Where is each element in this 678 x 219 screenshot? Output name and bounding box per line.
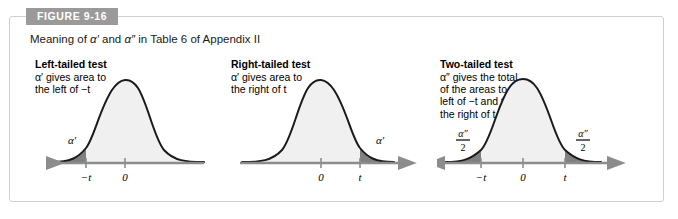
tick-label-neg-t: −t bbox=[81, 171, 92, 183]
tick-label-t: t bbox=[563, 171, 567, 183]
caption-text-after: in Table 6 of Appendix II bbox=[135, 33, 260, 45]
fraction-numerator-right: α″ bbox=[578, 128, 588, 139]
panel-two-tailed-chart: −t 0 t α″ 2 α″ 2 bbox=[437, 58, 645, 188]
density-curve-fill bbox=[52, 80, 204, 162]
tick-label-zero: 0 bbox=[520, 171, 526, 183]
caption-alpha-prime: α′ bbox=[90, 33, 99, 45]
alpha-prime-label: α′ bbox=[68, 134, 77, 146]
caption-text-middle: and bbox=[99, 33, 125, 45]
fraction-denominator-left: 2 bbox=[461, 142, 466, 153]
density-curve-fill bbox=[445, 79, 601, 162]
fraction-numerator-left: α″ bbox=[458, 128, 468, 139]
caption-text-before: Meaning of bbox=[30, 33, 90, 45]
panel-right-tailed: Right-tailed test α′ gives area to the r… bbox=[228, 58, 436, 188]
alpha-double-prime-over-two-left: α″ 2 bbox=[456, 128, 470, 153]
figure-number-label: FIGURE 9-16 bbox=[37, 10, 107, 22]
tick-label-t: t bbox=[358, 171, 362, 183]
tick-label-zero: 0 bbox=[122, 171, 128, 183]
panel-left-tailed-chart: −t 0 α′ bbox=[32, 58, 240, 188]
fraction-denominator-right: 2 bbox=[581, 142, 586, 153]
caption-alpha-double-prime: α″ bbox=[124, 33, 135, 45]
alpha-prime-label: α′ bbox=[376, 134, 385, 146]
panel-right-tailed-chart: 0 t α′ bbox=[228, 58, 436, 188]
tick-label-neg-t: −t bbox=[476, 171, 487, 183]
panel-two-tailed: Two-tailed test α″ gives the total of th… bbox=[437, 58, 645, 188]
density-curve-fill bbox=[242, 80, 394, 162]
alpha-double-prime-over-two-right: α″ 2 bbox=[576, 128, 590, 153]
figure-caption: Meaning of α′ and α″ in Table 6 of Appen… bbox=[30, 33, 260, 45]
panel-left-tailed: Left-tailed test α′ gives area to the le… bbox=[32, 58, 240, 188]
figure-number-tab: FIGURE 9-16 bbox=[26, 8, 118, 25]
tick-label-zero: 0 bbox=[318, 171, 324, 183]
